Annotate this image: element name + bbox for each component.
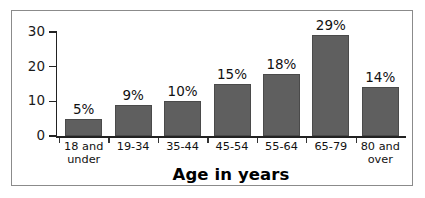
category-label-line: 35-44 <box>166 141 199 154</box>
category-label-line: 65-79 <box>314 141 347 154</box>
x-tick-mark <box>306 138 307 143</box>
bar <box>362 87 399 136</box>
bar <box>263 74 300 136</box>
x-tick-mark <box>59 138 60 143</box>
bar <box>115 105 152 136</box>
category-label-line: 55-64 <box>265 141 298 154</box>
bar <box>164 101 201 136</box>
y-tick-mark-0 <box>49 135 56 136</box>
y-tick-mark-20 <box>49 66 56 67</box>
bar-value-label: 10% <box>168 85 198 99</box>
y-tick-label-10: 10 <box>28 95 45 109</box>
category-label: 35-44 <box>166 141 199 154</box>
y-tick-label-30: 30 <box>28 25 45 39</box>
category-label-line: 45-54 <box>216 141 249 154</box>
y-axis-tick-labels: 0102030 <box>0 0 45 198</box>
x-tick-mark <box>158 138 159 143</box>
category-label: 80 andover <box>361 141 400 166</box>
bar-value-label: 18% <box>266 58 296 72</box>
category-label: 45-54 <box>216 141 249 154</box>
x-axis-title: Age in years <box>57 165 405 184</box>
bar-value-label: 15% <box>217 68 247 82</box>
bar-value-label: 9% <box>122 89 143 103</box>
y-tick-label-0: 0 <box>36 129 45 143</box>
bar-value-label: 5% <box>73 103 94 117</box>
y-tick-mark-10 <box>49 101 56 102</box>
bar <box>214 84 251 136</box>
x-tick-mark <box>108 138 109 143</box>
category-label: 18 andunder <box>64 141 103 166</box>
bar <box>312 35 349 136</box>
y-tick-label-20: 20 <box>28 60 45 74</box>
category-label: 55-64 <box>265 141 298 154</box>
bar-chart-figure: 0102030 5%9%10%15%18%29%14% 18 andunder1… <box>0 0 425 198</box>
x-tick-mark <box>257 138 258 143</box>
plot-area <box>57 32 405 136</box>
x-tick-mark <box>356 138 357 143</box>
y-tick-mark-30 <box>49 31 56 32</box>
category-label: 19-34 <box>117 141 150 154</box>
bar-value-label: 29% <box>316 19 346 33</box>
category-label-line: 18 and <box>64 141 103 154</box>
x-tick-mark <box>207 138 208 143</box>
category-label: 65-79 <box>314 141 347 154</box>
bar <box>65 119 102 136</box>
bar-value-label: 14% <box>365 71 395 85</box>
category-label-line: 19-34 <box>117 141 150 154</box>
category-label-line: 80 and <box>361 141 400 154</box>
